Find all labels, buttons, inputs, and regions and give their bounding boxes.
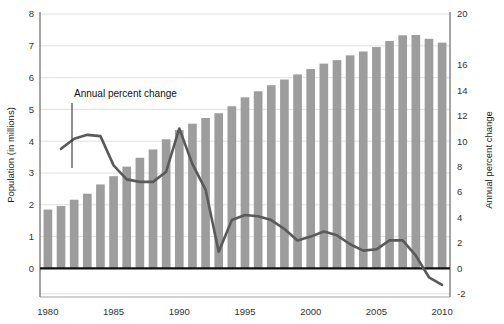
right-tick-label: 12 <box>457 110 468 121</box>
left-tick-label: 1 <box>29 231 34 242</box>
left-tick-label: 7 <box>29 40 34 51</box>
right-tick-label: 2 <box>457 237 462 248</box>
bar <box>175 130 184 268</box>
bar <box>241 97 250 268</box>
population-and-percent-change-chart: 012345678 -2024681012141620 198019851990… <box>0 0 504 324</box>
right-tick-label: 8 <box>457 161 462 172</box>
x-tick-label: 2010 <box>432 306 453 317</box>
bar <box>346 55 355 268</box>
right-tick-label: 10 <box>457 136 468 147</box>
annotation-label: Annual percent change <box>74 88 177 99</box>
left-tick-label: 2 <box>29 199 34 210</box>
bar <box>122 167 131 269</box>
left-axis-ticks: 012345678 <box>29 8 34 273</box>
left-axis-title: Population (in millions) <box>5 107 16 203</box>
bar <box>280 80 289 269</box>
x-tick-label: 2000 <box>300 306 321 317</box>
right-tick-label: -2 <box>457 288 465 299</box>
bar <box>109 176 118 268</box>
x-tick-label: 1995 <box>234 306 255 317</box>
bar <box>83 194 92 269</box>
x-tick-label: 2005 <box>366 306 387 317</box>
bar <box>149 149 158 268</box>
left-tick-label: 3 <box>29 167 34 178</box>
bar <box>70 200 79 269</box>
x-tick-label: 1985 <box>103 306 124 317</box>
bar <box>412 35 421 268</box>
bar <box>188 124 197 269</box>
bar <box>372 47 381 268</box>
left-tick-label: 5 <box>29 104 34 115</box>
x-axis-ticks: 1980198519901995200020052010 <box>37 306 452 317</box>
right-axis-title: Annual percent change <box>483 111 494 209</box>
bar <box>438 43 447 269</box>
right-tick-label: 0 <box>457 263 462 274</box>
bar <box>425 39 434 269</box>
bar <box>228 106 237 268</box>
bar <box>44 210 53 269</box>
chart-container: 012345678 -2024681012141620 198019851990… <box>0 0 504 324</box>
right-tick-label: 4 <box>457 212 462 223</box>
bar <box>136 158 145 269</box>
bar <box>254 91 263 268</box>
x-tick-label: 1990 <box>169 306 190 317</box>
right-tick-label: 16 <box>457 59 468 70</box>
right-tick-label: 14 <box>457 85 468 96</box>
x-tick-label: 1980 <box>37 306 58 317</box>
right-axis-ticks: -2024681012141620 <box>457 8 468 299</box>
left-tick-label: 6 <box>29 72 34 83</box>
bar <box>320 64 329 269</box>
bar <box>359 52 368 269</box>
bar <box>385 41 394 268</box>
bar <box>398 35 407 268</box>
left-tick-label: 0 <box>29 263 34 274</box>
bar <box>57 206 66 268</box>
bar <box>267 85 276 268</box>
right-tick-label: 6 <box>457 186 462 197</box>
left-tick-label: 4 <box>29 136 34 147</box>
left-tick-label: 8 <box>29 8 34 19</box>
bar <box>96 184 105 268</box>
right-tick-label: 20 <box>457 8 468 19</box>
